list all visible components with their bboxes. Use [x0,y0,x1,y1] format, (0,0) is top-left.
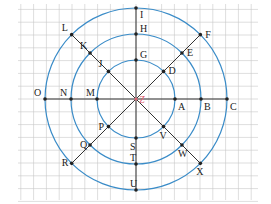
point-F [199,33,203,37]
label-J: J [98,58,102,69]
label-N: N [60,87,67,98]
point-L [70,33,74,37]
point-C [225,97,229,101]
point-E [180,51,184,55]
concentric-circles-diagram: ABCDEFGHIJKLMNOPQRSTUVWXZ [0,0,271,204]
label-K: K [80,40,88,51]
label-L: L [62,22,68,33]
label-W: W [178,148,188,159]
center-point [135,98,138,101]
label-X: X [196,166,204,177]
label-V: V [160,130,168,141]
point-A [173,97,177,101]
point-K [88,51,92,55]
point-B [199,97,203,101]
label-G: G [140,49,147,60]
point-D [162,70,166,74]
label-A: A [178,101,186,112]
label-I: I [140,9,143,20]
point-O [43,97,47,101]
point-J [107,70,111,74]
label-M: M [86,87,95,98]
label-R: R [62,157,69,168]
points [43,6,229,192]
label-F: F [205,29,211,40]
center-label: Z [139,94,145,105]
point-Q [88,143,92,147]
label-O: O [34,87,41,98]
point-H [134,32,138,36]
point-M [95,97,99,101]
point-R [70,162,74,166]
label-Q: Q [80,139,88,150]
point-V [162,125,166,129]
point-I [134,6,138,10]
label-D: D [169,65,176,76]
label-U: U [130,178,138,189]
label-H: H [140,23,147,34]
point-P [107,125,111,129]
label-T: T [130,152,136,163]
label-P: P [98,121,104,132]
point-G [134,58,138,62]
point-W [180,143,184,147]
point-X [199,162,203,166]
point-N [69,97,73,101]
label-C: C [230,101,237,112]
point-S [134,136,138,140]
label-S: S [130,141,136,152]
label-B: B [204,101,211,112]
label-E: E [187,47,193,58]
